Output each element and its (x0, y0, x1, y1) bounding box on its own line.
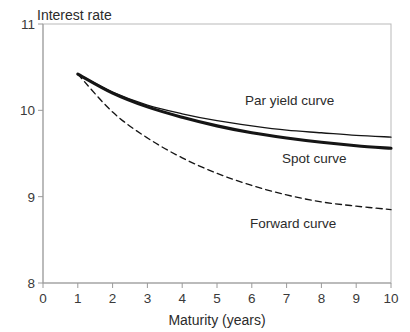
x-tick-label: 9 (352, 291, 360, 306)
annotation-forward-curve: Forward curve (250, 216, 336, 231)
x-tick-label: 3 (144, 291, 152, 306)
y-axis-title: Interest rate (37, 7, 112, 23)
x-axis-title: Maturity (years) (168, 312, 265, 328)
x-tick-label: 2 (109, 291, 117, 306)
chart-canvas: 891011 012345678910 Par yield curveSpot … (0, 0, 410, 332)
annotation-spot-curve: Spot curve (282, 151, 347, 166)
y-tick-label: 9 (27, 190, 35, 205)
x-tick-label: 8 (318, 291, 326, 306)
chart-background (0, 0, 410, 332)
x-tick-label: 5 (213, 291, 221, 306)
x-tick-label: 4 (178, 291, 186, 306)
x-tick-label: 6 (248, 291, 256, 306)
x-tick-label: 1 (74, 291, 82, 306)
y-tick-label: 8 (27, 276, 35, 291)
x-tick-label: 10 (383, 291, 398, 306)
x-tick-label: 7 (283, 291, 291, 306)
x-tick-label: 0 (39, 291, 47, 306)
annotation-par-yield-curve: Par yield curve (245, 93, 334, 108)
y-tick-label: 10 (20, 103, 35, 118)
y-tick-label: 11 (21, 17, 35, 32)
interest-rate-chart: 891011 012345678910 Par yield curveSpot … (0, 0, 410, 332)
